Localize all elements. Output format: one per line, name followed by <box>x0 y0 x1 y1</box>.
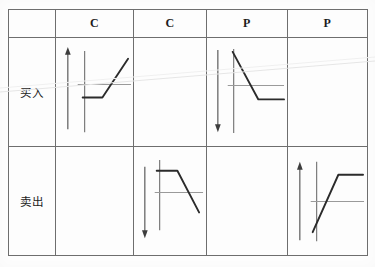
payoff-matrix-table: C C P P 买入 <box>8 9 368 256</box>
column-header-put-sell: P <box>288 10 368 38</box>
long-put-payoff-diagram <box>207 38 287 146</box>
row-header-sell: 卖出 <box>9 147 56 256</box>
cell-buy-put-sell-empty <box>288 38 368 147</box>
up-arrow-icon <box>297 162 303 240</box>
scanned-page: C C P P 买入 <box>0 0 375 267</box>
down-arrow-icon <box>142 167 148 238</box>
cell-sell-put-buy-empty <box>207 147 288 256</box>
cell-sell-call <box>134 147 207 256</box>
up-arrow-icon <box>65 47 71 129</box>
cell-buy-put <box>207 38 288 147</box>
table-header-row: C C P P <box>9 10 368 38</box>
down-arrow-icon <box>215 50 221 132</box>
cell-buy-call <box>56 38 134 147</box>
short-call-payoff-diagram <box>134 147 206 255</box>
short-put-payoff-diagram <box>288 147 367 255</box>
payoff-matrix-table-wrapper: C C P P 买入 <box>8 9 367 256</box>
table-row: 买入 <box>9 38 368 147</box>
table-row: 卖出 <box>9 147 368 256</box>
column-header-put-buy: P <box>207 10 288 38</box>
column-header-call-sell: C <box>134 10 207 38</box>
row-header-buy: 买入 <box>9 38 56 147</box>
column-header-call-buy: C <box>56 10 134 38</box>
table-corner-cell <box>9 10 56 38</box>
cell-buy-call-sell-empty <box>134 38 207 147</box>
long-call-payoff-diagram <box>56 38 133 146</box>
cell-sell-call-buy-empty <box>56 147 134 256</box>
cell-sell-put <box>288 147 368 256</box>
